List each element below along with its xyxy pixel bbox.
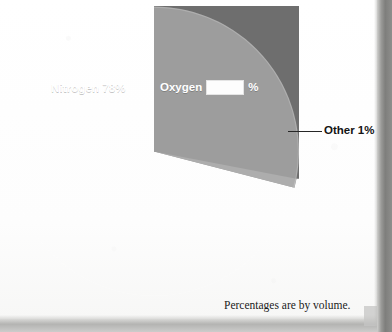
pie-label-nitrogen: Nitrogen 78% (51, 83, 126, 95)
pie-label-other: Other 1% (324, 125, 375, 137)
pie-chart-svg (9, 6, 299, 297)
pie-label-oxygen-name: Oxygen (160, 82, 202, 94)
pie-label-oxygen: Oxygen % (160, 80, 258, 95)
screenshot-root: Nitrogen 78% Oxygen % Other 1% Percentag… (0, 0, 392, 332)
pie-chart (9, 6, 299, 297)
page-right-edge (377, 0, 392, 332)
oxygen-value-blank-box (206, 80, 244, 95)
page-bottom-edge (0, 319, 380, 332)
pie-label-oxygen-percent-sign: % (248, 82, 258, 94)
other-leader-line (288, 131, 322, 132)
figure-caption: Percentages are by volume. (224, 300, 350, 312)
